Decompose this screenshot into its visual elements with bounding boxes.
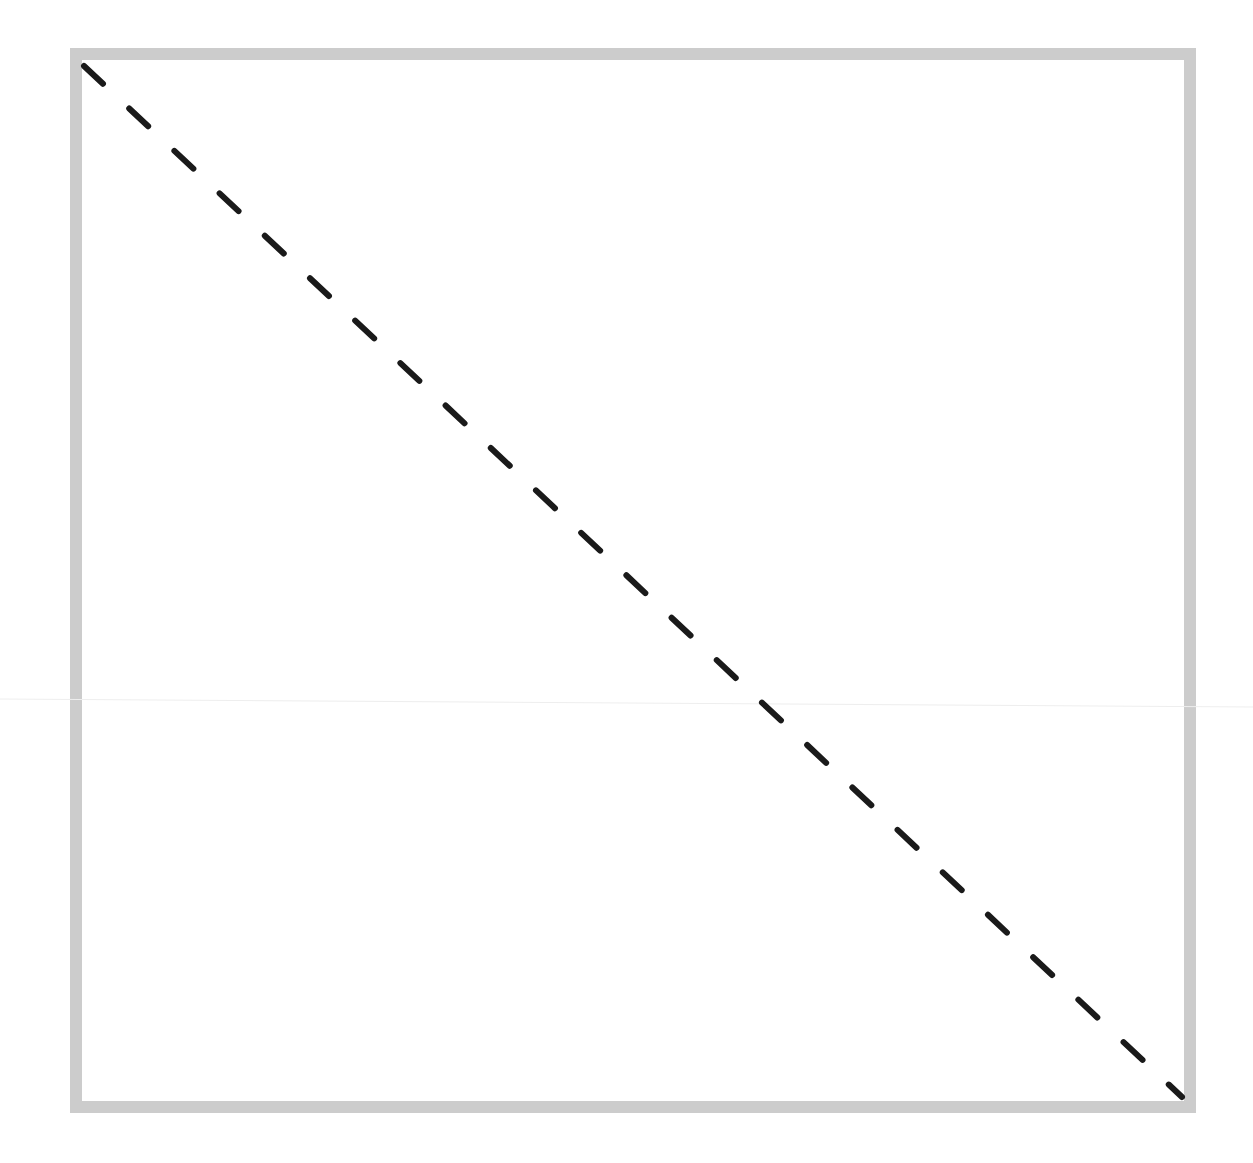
placeholder-overlay [0, 0, 1253, 1163]
canvas [0, 0, 1253, 1163]
faint-guide-line [0, 699, 1253, 707]
dashed-diagonal-line [84, 66, 1182, 1097]
